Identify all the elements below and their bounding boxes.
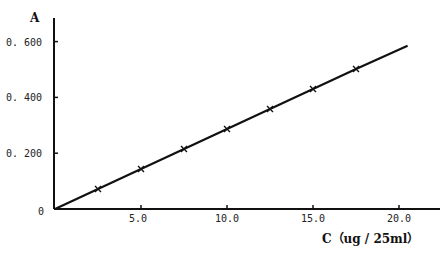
y-ticks: 0. 2000. 4000. 600	[6, 37, 58, 160]
x-ticks: 5.010.015.020.0	[129, 205, 411, 224]
origin-label: 0	[38, 206, 44, 217]
y-axis-title: A	[29, 11, 40, 25]
y-tick-label: 0. 600	[6, 37, 42, 48]
x-tick-label: 5.0	[129, 213, 147, 224]
calibration-chart: 0. 2000. 4000. 600 5.010.015.020.0 A 0 C…	[0, 0, 447, 254]
x-tick-label: 10.0	[215, 213, 239, 224]
x-axis-title: C（ug / 25ml）	[322, 231, 419, 246]
y-tick-label: 0. 200	[6, 148, 42, 159]
y-tick-label: 0. 400	[6, 92, 42, 103]
axes	[54, 18, 440, 209]
x-tick-label: 15.0	[301, 213, 325, 224]
data-series	[55, 46, 408, 209]
x-tick-label: 20.0	[387, 213, 411, 224]
